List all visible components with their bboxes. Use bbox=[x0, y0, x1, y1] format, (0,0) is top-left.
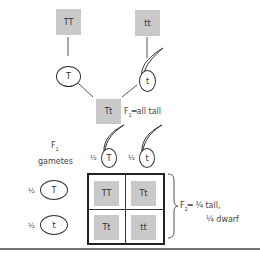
gamete-allele: T bbox=[107, 154, 112, 163]
parent-genotype: TT bbox=[64, 18, 74, 27]
cell-genotype: Tt bbox=[139, 189, 147, 198]
punnett-cell: Tt bbox=[94, 215, 119, 240]
parent-box-tt-dominant: TT bbox=[56, 9, 81, 35]
f1-box: Tt bbox=[96, 99, 121, 124]
gamete-egg-T: T bbox=[56, 66, 81, 87]
gamete-allele: t bbox=[145, 154, 148, 163]
f2-line2: ¼ dwarf bbox=[206, 215, 239, 224]
f1-label: F1═all tall bbox=[124, 107, 161, 118]
punnett-cell: tt bbox=[131, 215, 156, 240]
gamete-pollen-t: t bbox=[139, 70, 156, 92]
punnett-divider-h bbox=[89, 209, 163, 210]
cell-genotype: TT bbox=[102, 189, 112, 198]
f1-gametes-title: gametes bbox=[38, 157, 73, 166]
row-gamete-T: T bbox=[40, 180, 68, 200]
f1-label-text: ═all tall bbox=[132, 107, 161, 116]
cell-genotype: Tt bbox=[102, 223, 110, 232]
gamete-allele: T bbox=[66, 72, 71, 81]
f1-genotype: Tt bbox=[104, 107, 112, 116]
col-fraction-1: ½ bbox=[90, 154, 97, 162]
row-gamete-t: t bbox=[40, 215, 68, 235]
parent-genotype: tt bbox=[144, 19, 150, 28]
punnett-cell: Tt bbox=[131, 181, 156, 206]
col-gamete-t: t bbox=[139, 148, 155, 168]
col-fraction-2: ½ bbox=[128, 154, 135, 162]
punnett-square: TT Tt Tt tt bbox=[87, 173, 165, 245]
f1-gametes-title-f: F1 bbox=[51, 141, 59, 152]
row-fraction-1: ½ bbox=[28, 187, 35, 195]
f-sub: 1 bbox=[56, 146, 59, 152]
col-gamete-T: T bbox=[101, 148, 117, 168]
parent-box-tt-recessive: tt bbox=[135, 10, 160, 36]
gamete-allele: T bbox=[52, 186, 57, 195]
cell-genotype: tt bbox=[140, 223, 146, 232]
gamete-allele: t bbox=[52, 221, 55, 230]
f2-line1: ═ ¾ tall, bbox=[188, 201, 221, 210]
row-fraction-2: ½ bbox=[28, 222, 35, 230]
punnett-cell: TT bbox=[94, 181, 119, 206]
f2-label: F2═ ¾ tall, bbox=[180, 201, 220, 212]
gamete-allele: t bbox=[146, 77, 149, 86]
